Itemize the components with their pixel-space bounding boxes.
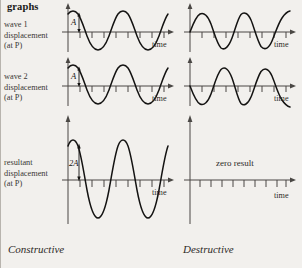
- wave-curve: [68, 140, 168, 218]
- x-axis-ticks: [200, 180, 286, 187]
- y-axis-arrowhead: [66, 57, 71, 63]
- plot-resultant-constructive: 2A time: [60, 112, 178, 227]
- row-label-resultant: resultant displacement (at P): [4, 158, 62, 190]
- time-axis-label: time: [152, 40, 167, 49]
- figure-heading: graphs: [7, 1, 39, 12]
- amplitude-label: A: [70, 71, 77, 81]
- row-label-line: (at P): [4, 93, 62, 104]
- row-label-wave-1: wave 1 displacement (at P): [4, 20, 62, 52]
- amplitude-label: A: [70, 17, 77, 27]
- time-axis-label: time: [152, 94, 167, 103]
- y-axis-arrowhead: [66, 3, 71, 9]
- row-label-line: wave 1: [4, 20, 62, 31]
- y-axis-arrowhead: [188, 115, 193, 122]
- row-label-wave-2: wave 2 displacement (at P): [4, 72, 62, 104]
- y-axis-arrowhead: [188, 3, 193, 9]
- x-axis-arrowhead: [168, 30, 174, 35]
- plot-wave1-destructive: time: [182, 2, 300, 54]
- zero-result-text: zero result: [216, 158, 254, 168]
- row-label-line: displacement: [4, 83, 62, 94]
- interference-graphs-figure: graphs wave 1 displacement (at P): [0, 0, 302, 268]
- x-axis-ticks: [80, 180, 164, 187]
- time-axis-label: time: [274, 40, 289, 49]
- caption-constructive: Constructive: [8, 243, 64, 255]
- y-axis-arrowhead: [188, 57, 193, 63]
- left-rule: [0, 0, 1, 268]
- caption-destructive: Destructive: [183, 243, 234, 255]
- row-label-line: displacement: [4, 169, 62, 180]
- time-axis-label: time: [274, 94, 289, 103]
- x-axis-arrowhead: [290, 178, 296, 183]
- x-axis-arrowhead: [290, 84, 296, 89]
- time-axis-label: time: [152, 188, 167, 197]
- x-axis-ticks: [80, 86, 164, 92]
- x-axis-arrowhead: [168, 84, 174, 89]
- row-label-line: resultant: [4, 158, 62, 169]
- time-axis-label: time: [274, 191, 289, 200]
- x-axis-arrowhead: [168, 178, 174, 183]
- plot-wave2-destructive: time: [182, 56, 300, 108]
- row-label-line: displacement: [4, 31, 62, 42]
- x-axis-ticks: [202, 86, 286, 92]
- plot-resultant-destructive: time: [182, 112, 300, 227]
- row-label-line: (at P): [4, 41, 62, 52]
- x-axis-ticks: [80, 32, 164, 38]
- y-axis-arrowhead: [66, 115, 71, 122]
- row-label-line: wave 2: [4, 72, 62, 83]
- x-axis-arrowhead: [290, 30, 296, 35]
- plot-wave2-constructive: A time: [60, 56, 178, 108]
- amplitude-label: 2A: [69, 158, 79, 168]
- row-label-line: (at P): [4, 179, 62, 190]
- plot-wave1-constructive: A time: [60, 2, 178, 54]
